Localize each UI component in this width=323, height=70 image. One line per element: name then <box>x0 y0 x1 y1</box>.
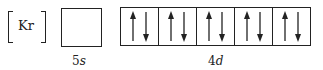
spin-up-arrow <box>282 11 288 41</box>
core-label: Kr <box>18 18 34 33</box>
orbital-4d-3 <box>197 8 235 45</box>
orbital-4d-2 <box>159 8 197 45</box>
orbital-group-4d <box>120 7 311 46</box>
orbital-4d-5 <box>273 8 310 45</box>
noble-gas-core: Kr <box>8 11 46 43</box>
spin-up-arrow <box>244 11 250 41</box>
spin-down-arrow <box>219 12 225 42</box>
label-5s: 5s <box>72 54 86 68</box>
spin-down-arrow <box>257 12 263 42</box>
orbital-4d-4 <box>235 8 273 45</box>
spin-up-arrow <box>130 11 136 41</box>
spin-up-arrow <box>168 11 174 41</box>
label-4d: 4d <box>208 54 223 68</box>
spin-up-arrow <box>206 11 212 41</box>
spin-down-arrow <box>295 12 301 42</box>
spin-down-arrow <box>143 12 149 42</box>
left-bracket <box>8 11 13 43</box>
right-bracket <box>41 11 46 43</box>
spin-down-arrow <box>181 12 187 42</box>
orbital-5s <box>61 8 102 47</box>
orbital-4d-1 <box>121 8 159 45</box>
